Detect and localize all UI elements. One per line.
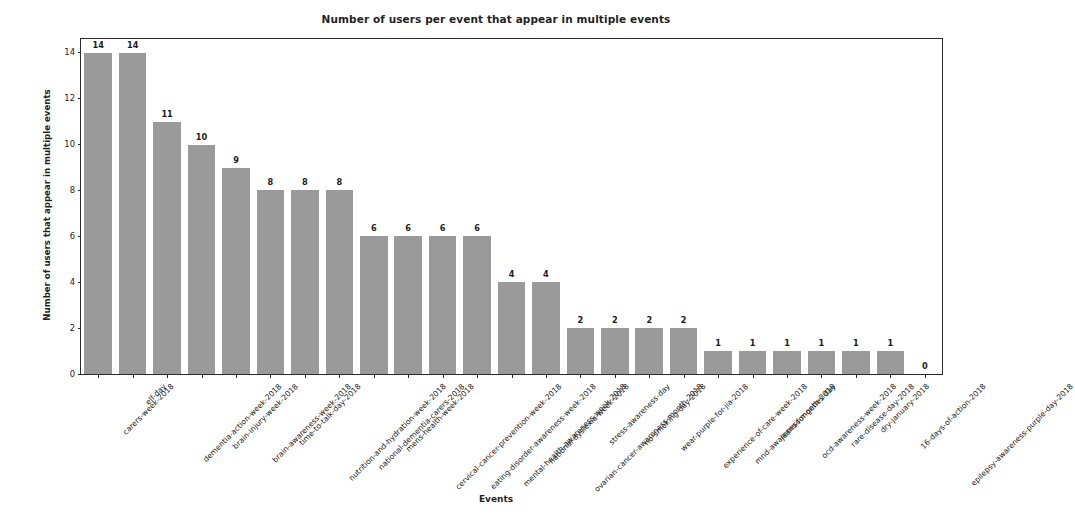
- bar-group[interactable]: 8: [291, 39, 319, 374]
- bar[interactable]: [842, 351, 870, 374]
- bar[interactable]: [670, 328, 698, 374]
- bar-value-label: 8: [291, 177, 319, 187]
- bar[interactable]: [498, 282, 526, 374]
- bar[interactable]: [877, 351, 905, 374]
- x-axis-tick-label: dementia-action-week-2018: [201, 382, 283, 464]
- bar-value-label: 2: [567, 315, 595, 325]
- bar-group[interactable]: 0: [911, 39, 939, 374]
- y-axis-tick-label: 12: [64, 93, 75, 103]
- bar-group[interactable]: 6: [394, 39, 422, 374]
- y-axis-tick-label: 0: [70, 369, 75, 379]
- bar[interactable]: [326, 190, 354, 374]
- bar-value-label: 1: [704, 338, 732, 348]
- bar-group[interactable]: 2: [670, 39, 698, 374]
- bar-group[interactable]: 4: [532, 39, 560, 374]
- bar-value-label: 2: [601, 315, 629, 325]
- bar-value-label: 1: [808, 338, 836, 348]
- x-axis-tick-mark: [684, 374, 685, 378]
- bar-value-label: 2: [670, 315, 698, 325]
- bar-group[interactable]: 1: [704, 39, 732, 374]
- x-axis-tick-mark: [443, 374, 444, 378]
- y-axis-tick-mark: [78, 190, 82, 191]
- bar[interactable]: [463, 236, 491, 374]
- bar-value-label: 6: [463, 223, 491, 233]
- bars-layer: 0246810121414141110988866664422221111110: [81, 39, 942, 374]
- x-axis-tick-mark: [270, 374, 271, 378]
- bar-group[interactable]: 1: [842, 39, 870, 374]
- x-axis-tick-mark: [718, 374, 719, 378]
- x-axis-tick-mark: [133, 374, 134, 378]
- bar-value-label: 1: [739, 338, 767, 348]
- x-axis-tick-mark: [512, 374, 513, 378]
- x-axis-tick-mark: [98, 374, 99, 378]
- x-axis-tick-mark: [615, 374, 616, 378]
- x-axis-tick-label: jeans-for-genes-day: [778, 382, 838, 442]
- bar[interactable]: [808, 351, 836, 374]
- bar-value-label: 0: [911, 361, 939, 371]
- bar-group[interactable]: 2: [601, 39, 629, 374]
- bar[interactable]: [153, 122, 181, 374]
- bar[interactable]: [291, 190, 319, 374]
- bar-group[interactable]: 1: [739, 39, 767, 374]
- x-axis-tick-label: nutrition-and-hydration-week-2018: [347, 382, 448, 483]
- bar-group[interactable]: 9: [222, 39, 250, 374]
- bar[interactable]: [188, 145, 216, 374]
- x-axis-tick-label: time-to-talk-day-2018: [298, 382, 363, 447]
- bar-group[interactable]: 10: [188, 39, 216, 374]
- bar[interactable]: [773, 351, 801, 374]
- y-axis-tick-mark: [78, 52, 82, 53]
- bar-value-label: 4: [498, 269, 526, 279]
- y-axis-tick-mark: [78, 98, 82, 99]
- bar[interactable]: [567, 328, 595, 374]
- bar-group[interactable]: 8: [257, 39, 285, 374]
- y-axis-tick-label: 6: [70, 231, 75, 241]
- x-axis-tick-mark: [408, 374, 409, 378]
- x-axis-tick-mark: [787, 374, 788, 378]
- y-axis-tick-label: 2: [70, 323, 75, 333]
- x-axis-tick-label: epilepsy-awareness-purple-day-2018: [969, 382, 1075, 488]
- bar-group[interactable]: 11: [153, 39, 181, 374]
- bar-value-label: 2: [635, 315, 663, 325]
- bar-group[interactable]: 8: [326, 39, 354, 374]
- bar-group[interactable]: 6: [360, 39, 388, 374]
- bar-group[interactable]: 2: [635, 39, 663, 374]
- bar[interactable]: [222, 168, 250, 375]
- bar[interactable]: [532, 282, 560, 374]
- bar-group[interactable]: 2: [567, 39, 595, 374]
- bar-group[interactable]: 14: [84, 39, 112, 374]
- bar-group[interactable]: 1: [808, 39, 836, 374]
- bar[interactable]: [84, 53, 112, 374]
- y-axis-tick-label: 10: [64, 139, 75, 149]
- bar-group[interactable]: 1: [877, 39, 905, 374]
- x-axis-tick-mark: [546, 374, 547, 378]
- plot-area: 0246810121414141110988866664422221111110: [80, 38, 943, 375]
- bar-group[interactable]: 6: [429, 39, 457, 374]
- bar-group[interactable]: 4: [498, 39, 526, 374]
- bar-group[interactable]: 6: [463, 39, 491, 374]
- bar[interactable]: [257, 190, 285, 374]
- bar-value-label: 9: [222, 155, 250, 165]
- x-axis-tick-mark: [202, 374, 203, 378]
- bar[interactable]: [429, 236, 457, 374]
- bar[interactable]: [119, 53, 147, 374]
- bar-group[interactable]: 1: [773, 39, 801, 374]
- bar-value-label: 1: [842, 338, 870, 348]
- bar[interactable]: [704, 351, 732, 374]
- x-axis-tick-mark: [890, 374, 891, 378]
- bar[interactable]: [601, 328, 629, 374]
- bar-value-label: 8: [326, 177, 354, 187]
- bar-group[interactable]: 14: [119, 39, 147, 374]
- y-axis-tick-mark: [78, 374, 82, 375]
- x-axis-tick-mark: [580, 374, 581, 378]
- bar[interactable]: [635, 328, 663, 374]
- x-axis-tick-mark: [374, 374, 375, 378]
- x-axis-tick-mark: [925, 374, 926, 378]
- bar[interactable]: [739, 351, 767, 374]
- chart-title: Number of users per event that appear in…: [0, 13, 992, 25]
- y-axis-tick-mark: [78, 328, 82, 329]
- bar[interactable]: [394, 236, 422, 374]
- x-axis-label: Events: [0, 494, 992, 504]
- bar[interactable]: [360, 236, 388, 374]
- bar-value-label: 1: [773, 338, 801, 348]
